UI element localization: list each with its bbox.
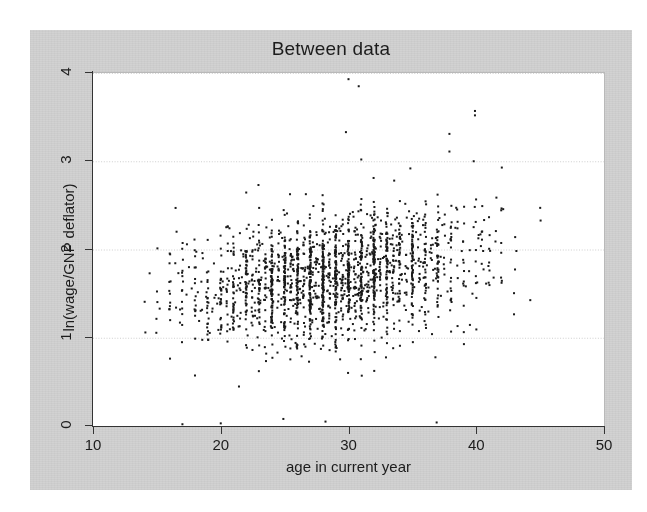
data-point — [475, 221, 477, 223]
data-point — [335, 264, 337, 266]
data-point — [271, 283, 273, 285]
data-point — [366, 286, 368, 288]
data-point — [457, 325, 459, 327]
data-point — [323, 324, 325, 326]
data-point — [348, 308, 350, 310]
data-point — [360, 204, 362, 206]
data-point — [426, 264, 428, 266]
data-point — [314, 261, 316, 263]
data-point — [348, 328, 350, 330]
data-point — [278, 280, 280, 282]
data-point — [360, 307, 362, 309]
data-point — [309, 337, 311, 339]
data-point — [455, 207, 457, 209]
data-point — [329, 349, 331, 351]
data-point — [500, 252, 502, 254]
data-point — [302, 297, 304, 299]
data-point — [320, 266, 322, 268]
data-point — [220, 248, 222, 250]
data-point — [348, 216, 350, 218]
data-point — [201, 339, 203, 341]
data-point — [425, 203, 427, 205]
data-point — [297, 321, 299, 323]
data-point — [328, 265, 330, 267]
data-point — [206, 281, 208, 283]
data-point — [290, 284, 292, 286]
data-point — [312, 267, 314, 269]
data-point — [475, 275, 477, 277]
data-point — [256, 243, 258, 245]
data-point — [335, 247, 337, 249]
data-point — [309, 311, 311, 313]
data-point — [376, 276, 378, 278]
data-point — [309, 282, 311, 284]
data-point — [354, 254, 356, 256]
data-point — [271, 256, 273, 258]
data-point — [248, 280, 250, 282]
data-point — [348, 274, 350, 276]
data-point — [383, 316, 385, 318]
data-point — [277, 276, 279, 278]
data-point — [411, 239, 413, 241]
data-point — [342, 282, 344, 284]
data-point — [412, 324, 414, 326]
data-point — [338, 271, 340, 273]
data-point — [239, 232, 241, 234]
data-point — [181, 272, 183, 274]
data-point — [310, 328, 312, 330]
data-point — [356, 300, 358, 302]
data-point — [360, 345, 362, 347]
data-point — [427, 311, 429, 313]
data-point — [270, 291, 272, 293]
data-point — [354, 317, 356, 319]
data-point — [219, 301, 221, 303]
data-point — [331, 335, 333, 337]
data-point — [327, 241, 329, 243]
data-point — [411, 234, 413, 236]
data-point — [379, 276, 381, 278]
data-point — [488, 262, 490, 264]
data-point — [411, 225, 413, 227]
data-point — [440, 295, 442, 297]
data-point — [366, 247, 368, 249]
data-point — [373, 177, 375, 179]
data-point — [293, 259, 295, 261]
data-point — [380, 274, 382, 276]
x-tick-label-30: 30 — [329, 436, 369, 453]
data-point — [271, 254, 273, 256]
data-point — [290, 253, 292, 255]
data-point — [322, 273, 324, 275]
data-point — [220, 293, 222, 295]
data-point — [277, 300, 279, 302]
data-point — [379, 263, 381, 265]
data-point — [434, 356, 436, 358]
data-point — [235, 269, 237, 271]
data-point — [258, 344, 260, 346]
data-point — [386, 266, 388, 268]
data-point — [252, 236, 254, 238]
data-point — [357, 261, 359, 263]
data-point — [488, 248, 490, 250]
data-point — [277, 332, 279, 334]
data-point — [156, 301, 158, 303]
data-point — [355, 258, 357, 260]
data-point — [322, 194, 324, 196]
data-point — [358, 292, 360, 294]
data-point — [463, 206, 465, 208]
data-point — [258, 311, 260, 313]
data-point — [271, 248, 273, 250]
data-point — [220, 327, 222, 329]
data-point — [373, 310, 375, 312]
data-point — [316, 243, 318, 245]
data-point — [390, 223, 392, 225]
data-point — [271, 219, 273, 221]
data-point — [220, 317, 222, 319]
data-point — [217, 329, 219, 331]
data-point — [406, 217, 408, 219]
data-point — [284, 214, 286, 216]
data-point — [386, 291, 388, 293]
data-point — [392, 259, 394, 261]
data-point — [212, 308, 214, 310]
data-point — [264, 283, 266, 285]
data-point — [226, 305, 228, 307]
